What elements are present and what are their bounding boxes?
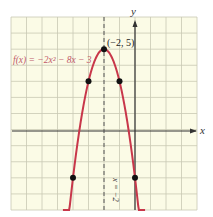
- symmetry-label: x = −2: [111, 177, 121, 202]
- y-axis-label: y: [130, 5, 136, 17]
- vertex-label: (−2, 5): [107, 37, 134, 49]
- data-point: [86, 78, 92, 84]
- x-axis-label: x: [199, 124, 205, 136]
- parabola-chart: x y (−2, 5) f(x) = −2x² − 8x − 3 x = −2: [0, 0, 213, 217]
- data-point: [70, 175, 76, 181]
- function-label: f(x) = −2x² − 8x − 3: [13, 55, 92, 66]
- data-point: [117, 78, 123, 84]
- data-point: [132, 175, 138, 181]
